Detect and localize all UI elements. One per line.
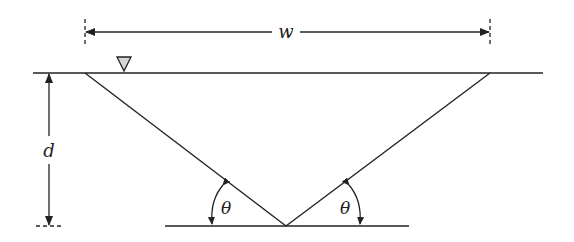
inverted-triangle-icon [117, 57, 131, 71]
angle-label-left: θ [221, 198, 231, 218]
angle-arc-right [349, 185, 360, 224]
channel-right-side [286, 73, 490, 226]
width-label: w [278, 21, 294, 42]
diagram-svg: w d θ θ [0, 0, 574, 242]
angle-label-right: θ [340, 198, 350, 218]
channel-diagram: w d θ θ [0, 0, 574, 242]
depth-label: d [43, 140, 55, 161]
channel-left-side [85, 73, 286, 226]
